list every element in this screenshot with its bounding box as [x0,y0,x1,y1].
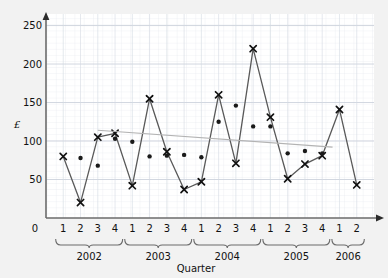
x-tick-label-8: 1 [198,223,204,234]
y-tick-label-150: 150 [23,97,42,108]
x-tick-label-15: 4 [319,223,325,234]
chart-container: 050100150200250 123412341234123412 20022… [0,0,388,278]
x-tick-label-5: 2 [146,223,152,234]
y-tick-label-0: 0 [32,223,38,234]
data-point-dot-5 [147,154,151,158]
x-tick-label-14: 3 [302,223,308,234]
x-tick-label-6: 3 [164,223,170,234]
x-tick-label-0: 1 [60,223,66,234]
data-point-dot-7 [182,153,186,157]
x-tick-label-7: 4 [181,223,187,234]
data-point-dot-9 [216,120,220,124]
data-point-dot-8 [199,155,203,159]
year-label-2006: 2006 [335,251,360,262]
line-chart: 050100150200250 123412341234123412 20022… [0,0,388,278]
y-tick-label-200: 200 [23,59,42,70]
data-point-dot-15 [320,151,324,155]
data-point-dot-14 [303,149,307,153]
x-tick-label-1: 2 [77,223,83,234]
x-tick-label-16: 1 [336,223,342,234]
data-point-dot-13 [285,151,289,155]
x-tick-label-12: 1 [267,223,273,234]
x-tick-label-17: 2 [354,223,360,234]
y-tick-label-250: 250 [23,20,42,31]
minor-gridlines [46,14,374,218]
data-point-dot-11 [251,124,255,128]
data-point-dot-1 [78,156,82,160]
data-point-dot-3 [113,137,117,141]
plot-area [46,14,374,218]
x-tick-label-9: 2 [215,223,221,234]
year-label-2004: 2004 [215,251,240,262]
x-tick-label-11: 4 [250,223,256,234]
year-label-2002: 2002 [76,251,101,262]
data-point-dot-2 [96,163,100,167]
y-tick-label-100: 100 [23,136,42,147]
y-axis-label: £ [13,119,21,130]
x-axis-title: Quarter [177,263,217,274]
x-tick-label-4: 1 [129,223,135,234]
year-label-2005: 2005 [284,251,309,262]
x-tick-label-10: 3 [233,223,239,234]
x-tick-label-3: 4 [112,223,118,234]
data-point-dot-4 [130,140,134,144]
year-label-2003: 2003 [145,251,170,262]
data-point-dot-6 [165,153,169,157]
data-point-dot-12 [268,124,272,128]
data-point-dot-10 [234,103,238,107]
y-tick-label-50: 50 [29,174,42,185]
x-tick-label-2: 3 [95,223,101,234]
x-tick-label-13: 2 [284,223,290,234]
